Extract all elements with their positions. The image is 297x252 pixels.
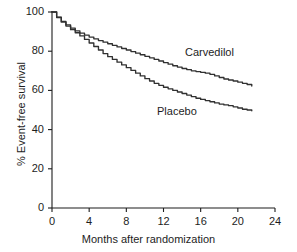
x-tick-label: 4 — [74, 215, 104, 227]
x-tick-label: 12 — [149, 215, 179, 227]
x-axis-title: Months after randomization — [0, 233, 297, 245]
series-label-placebo: Placebo — [157, 105, 197, 117]
series-label-carvedilol: Carvedilol — [185, 46, 234, 58]
x-tick-label: 0 — [37, 215, 67, 227]
y-ticks-group — [48, 12, 52, 208]
y-tick-label: 0 — [4, 201, 44, 213]
series-group — [52, 12, 252, 111]
series-line-placebo — [52, 12, 252, 111]
x-tick-label: 24 — [260, 215, 290, 227]
x-tick-label: 20 — [223, 215, 253, 227]
y-tick-label: 100 — [4, 5, 44, 17]
x-tick-label: 16 — [186, 215, 216, 227]
y-axis-title: % Event-free survival — [15, 49, 27, 179]
survival-chart-figure: 020406080100 04812162024 % Event-free su… — [0, 0, 297, 252]
x-ticks-group — [52, 208, 275, 212]
x-tick-label: 8 — [111, 215, 141, 227]
